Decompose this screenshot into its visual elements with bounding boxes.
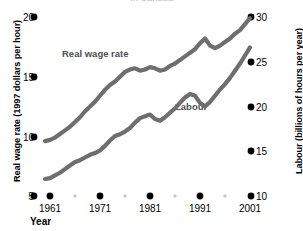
tick-dots-left xyxy=(31,14,38,200)
tick-dots-right xyxy=(248,14,255,200)
chart-plot-area xyxy=(0,0,303,231)
series-line-real-wage-rate xyxy=(45,18,250,141)
chart-container: in Canada Real wage rate (1997 dollars p… xyxy=(0,0,303,231)
